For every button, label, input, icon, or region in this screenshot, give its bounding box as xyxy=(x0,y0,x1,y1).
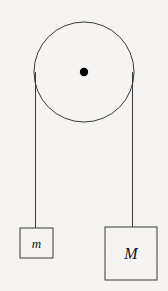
mass-label-small: m xyxy=(32,236,41,251)
mass-label-large: M xyxy=(123,245,139,262)
diagram-canvas: m M xyxy=(0,0,168,291)
atwood-machine-figure: m M xyxy=(0,0,168,291)
pulley-axle-dot xyxy=(80,68,88,76)
